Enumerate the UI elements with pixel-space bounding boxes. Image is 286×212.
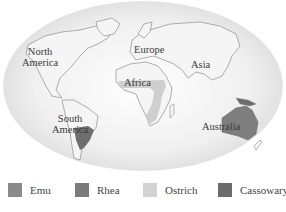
label-south-america: South America xyxy=(52,113,88,135)
legend-item-ostrich: Ostrich xyxy=(143,183,197,197)
legend-swatch-ostrich xyxy=(143,183,157,197)
legend: Emu Rhea Ostrich Cassowary xyxy=(0,183,286,203)
legend-label-emu: Emu xyxy=(30,184,51,196)
label-south-america-line2: America xyxy=(52,124,88,135)
legend-swatch-emu xyxy=(8,183,22,197)
legend-swatch-rhea xyxy=(75,183,89,197)
label-africa: Africa xyxy=(124,77,151,88)
new-zealand-landmass xyxy=(254,140,262,150)
legend-item-cassowary: Cassowary xyxy=(218,183,286,197)
legend-item-emu: Emu xyxy=(8,183,51,197)
legend-label-ostrich: Ostrich xyxy=(165,184,197,196)
legend-item-rhea: Rhea xyxy=(75,183,120,197)
label-north-america-line2: America xyxy=(22,57,58,68)
label-south-america-line1: South xyxy=(52,113,88,124)
label-australia: Australia xyxy=(202,121,241,132)
label-europe: Europe xyxy=(134,44,164,55)
legend-label-rhea: Rhea xyxy=(97,184,120,196)
legend-label-cassowary: Cassowary xyxy=(240,184,286,196)
label-north-america-line1: North xyxy=(22,46,58,57)
world-map: North America Europe Asia Africa South A… xyxy=(0,0,286,172)
legend-swatch-cassowary xyxy=(218,183,232,197)
label-asia: Asia xyxy=(191,59,210,70)
label-north-america: North America xyxy=(22,46,58,68)
